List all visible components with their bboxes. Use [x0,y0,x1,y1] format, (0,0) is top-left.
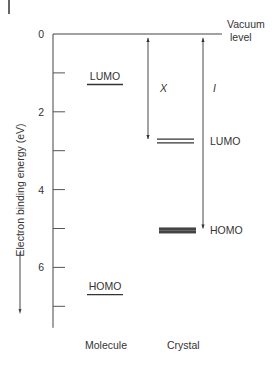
vacuum-level-label-line1: Vacuum [227,18,265,30]
arrow-i-head-top [201,38,204,42]
crystal-homo-label: HOMO [210,224,243,236]
arrow-x-head-bottom [146,135,149,139]
y-tick-label: 0 [38,28,44,40]
molecule-lumo-label: LUMO [90,70,120,82]
energy-arrows: XI [146,38,216,229]
crystal-lumo-label: LUMO [210,135,240,147]
y-ticks: 0246 [38,28,65,306]
column-label-crystal: Crystal [167,339,200,351]
y-tick-label: 2 [38,106,44,118]
energy-levels: LUMOHOMOLUMOHOMO [87,70,243,295]
arrow-x-label: X [159,82,168,94]
arrow-x-head-top [146,38,149,42]
column-label-molecule: Molecule [85,339,127,351]
arrow-i-label: I [213,82,216,94]
arrow-i-head-bottom [201,225,204,229]
y-tick-label: 4 [38,184,44,196]
vacuum-level-label-line2: level [230,31,252,43]
increasing-energy-arrowhead [19,309,22,314]
energy-level-diagram: Vacuum level 0246 Electron binding energ… [0,0,272,369]
y-tick-label: 6 [38,261,44,273]
molecule-homo-label: HOMO [89,280,122,292]
y-axis-label: Electron binding energy (eV) [14,123,26,256]
